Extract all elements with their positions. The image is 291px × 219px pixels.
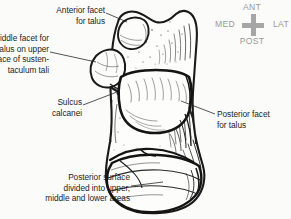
compass-anterior-label: ANT: [243, 2, 261, 12]
compass-lateral-label: LAT: [273, 19, 289, 29]
compass-medial-label: MED: [215, 19, 235, 29]
leader-middle-facet: [50, 52, 96, 62]
label-anterior-facet: Anterior facet for talus: [56, 5, 105, 26]
label-sulcus-calcanei: Sulcus calcanei: [52, 97, 82, 118]
posterior-facet-shape: [119, 70, 192, 133]
orientation-compass: ANT POST MED LAT: [215, 2, 289, 48]
label-posterior-surface: Posterior surface divided into upper, mi…: [45, 172, 130, 204]
compass-cross-vertical-icon: [251, 14, 256, 36]
label-middle-facet: Middle facet for talus on upper surface …: [0, 33, 49, 75]
anatomy-figure: Anterior facet for talus Middle facet fo…: [0, 0, 291, 219]
compass-posterior-label: POST: [240, 36, 265, 46]
anterior-facet-shape: [118, 18, 149, 50]
label-posterior-facet: Posterior facet for talus: [217, 109, 270, 130]
